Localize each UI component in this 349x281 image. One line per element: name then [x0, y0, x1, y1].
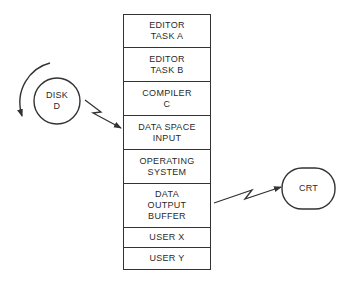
segment-compiler-c: COMPILER C	[124, 82, 210, 116]
segment-label: OPERATING SYSTEM	[139, 156, 194, 178]
memory-stack: EDITOR TASK A EDITOR TASK B COMPILER C D…	[123, 14, 211, 270]
segment-label: COMPILER C	[142, 88, 191, 110]
segment-editor-task-a: EDITOR TASK A	[124, 15, 210, 48]
segment-data-output-buffer: DATA OUTPUT BUFFER	[124, 184, 210, 228]
segment-label: EDITOR TASK B	[149, 54, 185, 76]
segment-label: USER X	[149, 232, 184, 243]
disk-label: DISK D	[37, 90, 77, 112]
segment-editor-task-b: EDITOR TASK B	[124, 48, 210, 82]
segment-label: EDITOR TASK A	[149, 20, 185, 42]
segment-label: USER Y	[149, 253, 184, 264]
segment-label: DATA OUTPUT BUFFER	[148, 189, 187, 222]
segment-operating-system: OPERATING SYSTEM	[124, 150, 210, 184]
segment-user-x: USER X	[124, 228, 210, 248]
segment-label: DATA SPACE INPUT	[138, 122, 196, 144]
buffer-to-crt-link	[214, 187, 281, 203]
segment-user-y: USER Y	[124, 248, 210, 269]
segment-data-space-input: DATA SPACE INPUT	[124, 116, 210, 150]
disk-to-input-link	[85, 100, 121, 128]
crt-label: CRT	[282, 183, 335, 194]
